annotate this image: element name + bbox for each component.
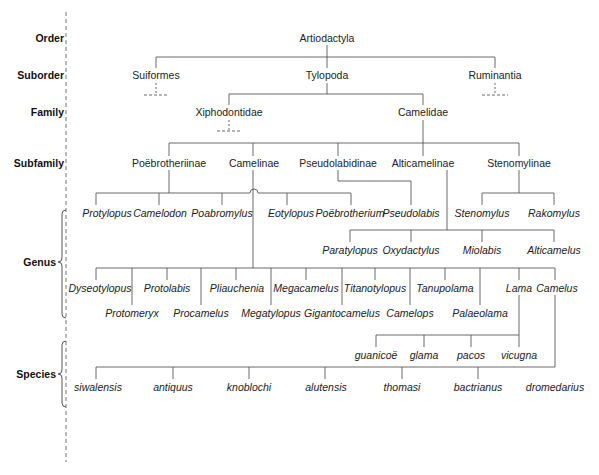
node-genus-lama: Lama (506, 282, 532, 294)
rank-label-species: Species (16, 368, 56, 380)
node-genus-miolabis: Miolabis (463, 244, 502, 256)
node-genus-tanupolama: Tanupolama (416, 282, 473, 294)
node-genus-rakomylus: Rakomylus (528, 207, 580, 219)
node-species-dromedarius: dromedarius (526, 381, 584, 393)
node-family-xiphodontidae: Xiphodontidae (195, 106, 262, 118)
rank-label-order: Order (35, 32, 64, 44)
node-species-antiquus: antiquus (153, 381, 193, 393)
node-genus-dyseotylopus: Dyseotylopus (68, 282, 131, 294)
node-genus-protomeryx: Protomeryx (105, 307, 159, 319)
node-species-knoblochi: knoblochi (227, 381, 271, 393)
node-genus-oxydactylus: Oxydactylus (382, 244, 439, 256)
rank-label-subfamily: Subfamily (14, 157, 64, 169)
node-suborder-ruminantia: Ruminantia (468, 69, 521, 81)
node-species-pacos: pacos (457, 349, 485, 361)
node-order-artiodactyla: Artiodactyla (300, 32, 355, 44)
node-family-camelidae: Camelidae (398, 106, 448, 118)
node-genus-gigantocamelus: Gigantocamelus (304, 307, 380, 319)
node-genus-protolabis: Protolabis (144, 282, 191, 294)
node-species-thomasi: thomasi (384, 381, 421, 393)
node-subfamily-pseudolabidinae: Pseudolabidinae (299, 157, 377, 169)
node-subfamily-poebrotheriinae: Poëbrotheriinae (132, 157, 206, 169)
node-genus-poebrotherium: Poëbrotherium (316, 207, 385, 219)
node-genus-palaeolama: Palaeolama (452, 307, 507, 319)
node-genus-poabromylus: Poabromylus (191, 207, 252, 219)
node-species-guanicoe: guanicoë (355, 349, 398, 361)
node-genus-megatylopus: Megatylopus (241, 307, 301, 319)
node-subfamily-camelinae: Camelinae (229, 157, 279, 169)
node-genus-pseudolabis: Pseudolabis (382, 207, 439, 219)
node-genus-eotylopus: Eotylopus (268, 207, 314, 219)
rank-label-genus: Genus (23, 256, 56, 268)
node-genus-protylopus: Protylopus (82, 207, 132, 219)
node-genus-camelops: Camelops (386, 307, 433, 319)
node-suborder-tylopoda: Tylopoda (306, 69, 349, 81)
node-genus-camelus: Camelus (536, 282, 577, 294)
node-species-glama: glama (410, 349, 439, 361)
node-genus-procamelus: Procamelus (173, 307, 228, 319)
node-genus-stenomylus: Stenomylus (455, 207, 510, 219)
node-species-alutensis: alutensis (305, 381, 346, 393)
node-species-bactrianus: bactrianus (454, 381, 502, 393)
node-genus-camelodon: Camelodon (133, 207, 187, 219)
node-subfamily-stenomylinae: Stenomylinae (487, 157, 551, 169)
node-genus-titanotylopus: Titanotylopus (344, 282, 406, 294)
node-genus-megacamelus: Megacamelus (273, 282, 338, 294)
rank-label-suborder: Suborder (17, 69, 64, 81)
rank-label-family: Family (31, 106, 64, 118)
node-subfamily-alticamelinae: Alticamelinae (392, 157, 454, 169)
node-genus-pliauchenia: Pliauchenia (210, 282, 264, 294)
taxonomy-diagram: Order Suborder Family Subfamily Genus Sp… (0, 0, 599, 475)
node-species-vicugna: vicugna (501, 349, 537, 361)
node-genus-alticamelus: Alticamelus (527, 244, 581, 256)
node-species-siwalensis: siwalensis (74, 381, 122, 393)
node-genus-paratylopus: Paratylopus (322, 244, 377, 256)
node-suborder-suiformes: Suiformes (132, 69, 179, 81)
